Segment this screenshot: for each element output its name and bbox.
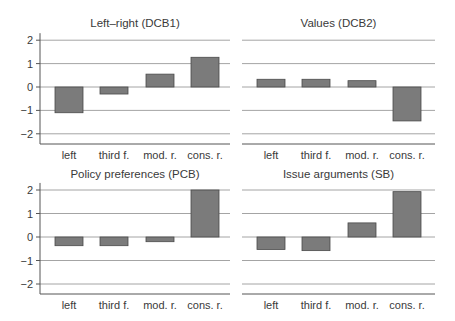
bar-cons-r (393, 192, 421, 237)
panel-top-left: Left–right (DCB1)210−1−2leftthird f.mod.… (20, 17, 230, 161)
panel-title: Left–right (DCB1) (90, 17, 180, 29)
panel-title: Policy preferences (PCB) (70, 168, 199, 180)
y-tick-label: 2 (27, 34, 33, 46)
x-tick-label: third f. (301, 149, 332, 161)
x-tick-label: third f. (99, 149, 130, 161)
bar-third-f (100, 87, 128, 94)
panel-title: Issue arguments (SB) (283, 168, 394, 180)
x-tick-label: mod. r. (143, 299, 177, 311)
panel-title: Values (DCB2) (301, 17, 377, 29)
y-tick-label: −1 (20, 255, 33, 267)
y-tick-label: −1 (20, 104, 33, 116)
bar-cons-r (191, 57, 219, 87)
bar-cons-r (393, 87, 421, 121)
bar-chart-grid: Left–right (DCB1)210−1−2leftthird f.mod.… (0, 0, 455, 321)
x-tick-label: mod. r. (345, 149, 379, 161)
y-tick-label: 1 (27, 208, 33, 220)
bar-third-f (100, 237, 128, 246)
bar-left (257, 79, 285, 87)
x-tick-label: cons. r. (187, 299, 222, 311)
x-tick-label: third f. (301, 299, 332, 311)
y-tick-label: 1 (27, 58, 33, 70)
bar-third-f (302, 237, 330, 251)
bar-mod-r (348, 81, 376, 87)
y-tick-label: 2 (27, 184, 33, 196)
x-tick-label: mod. r. (143, 149, 177, 161)
bar-left (257, 237, 285, 249)
x-tick-label: left (264, 299, 279, 311)
x-tick-label: mod. r. (345, 299, 379, 311)
bar-third-f (302, 79, 330, 87)
x-tick-label: cons. r. (389, 299, 424, 311)
bar-mod-r (348, 223, 376, 237)
bar-left (55, 237, 83, 246)
x-tick-label: left (62, 299, 77, 311)
bar-left (55, 87, 83, 113)
y-tick-label: 0 (27, 231, 33, 243)
x-tick-label: left (62, 149, 77, 161)
x-tick-label: third f. (99, 299, 130, 311)
bar-cons-r (191, 190, 219, 237)
x-tick-label: cons. r. (187, 149, 222, 161)
panel-bottom-right: Issue arguments (SB)leftthird f.mod. r.c… (242, 168, 435, 311)
bar-mod-r (146, 237, 174, 242)
bar-mod-r (146, 74, 174, 87)
panel-bottom-left: Policy preferences (PCB)210−1−2leftthird… (20, 168, 230, 311)
y-tick-label: −2 (20, 278, 33, 290)
panel-top-right: Values (DCB2)leftthird f.mod. r.cons. r. (242, 17, 435, 161)
x-tick-label: cons. r. (389, 149, 424, 161)
y-tick-label: 0 (27, 81, 33, 93)
y-tick-label: −2 (20, 128, 33, 140)
x-tick-label: left (264, 149, 279, 161)
